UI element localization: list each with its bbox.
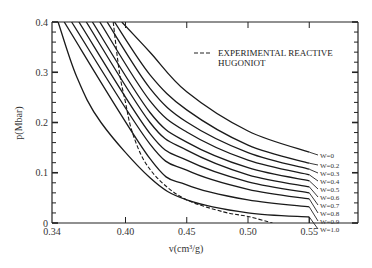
isentrope-curve-W-0-6 <box>86 22 309 187</box>
x-tick-label: 0.50 <box>239 226 257 237</box>
label-leader-line <box>309 199 318 213</box>
legend-label-line1: EXPERIMENTAL REACTIVE <box>218 48 333 58</box>
series-labels: W=0W=0.2W=0.3W=0.4W=0.5W=0.6W=0.7W=0.8W=… <box>309 152 340 234</box>
x-tick-label: 0.55 <box>301 226 319 237</box>
series-label: W=1.0 <box>320 226 340 234</box>
series-label: W=0.7 <box>320 202 340 210</box>
label-leader-line <box>309 175 318 181</box>
legend-label-line2: HUGONIOT <box>218 58 266 68</box>
series-label: W=0.8 <box>320 210 340 218</box>
series-label: W=0.4 <box>320 178 340 186</box>
x-tick-label: 0.40 <box>117 226 135 237</box>
y-axis-title: p(Mbar) <box>13 106 25 139</box>
series-label: W=0.2 <box>320 162 340 170</box>
series-label: W=0.3 <box>320 170 340 178</box>
y-tick-label: 0.2 <box>36 117 49 128</box>
label-leader-line <box>309 152 318 155</box>
series-label: W=0 <box>320 152 335 160</box>
series-label: W=0.6 <box>320 194 340 202</box>
hugoniot-chart: 00.10.20.30.40.340.400.450.500.55 W=0W=0… <box>0 0 372 268</box>
y-tick-label: 0.4 <box>36 17 49 28</box>
label-leader-line <box>309 163 318 165</box>
series-label: W=0.5 <box>320 186 340 194</box>
y-tick-label: 0.1 <box>36 167 49 178</box>
x-tick-label: 0.34 <box>43 226 61 237</box>
label-leader-line <box>309 169 318 173</box>
x-axis-title: v(cm³/g) <box>169 243 204 255</box>
label-leader-line <box>309 193 318 205</box>
y-tick-label: 0.3 <box>36 67 49 78</box>
legend: EXPERIMENTAL REACTIVE HUGONIOT <box>194 48 333 68</box>
series-label: W=0.9 <box>320 218 340 226</box>
x-tick-label: 0.45 <box>178 226 196 237</box>
